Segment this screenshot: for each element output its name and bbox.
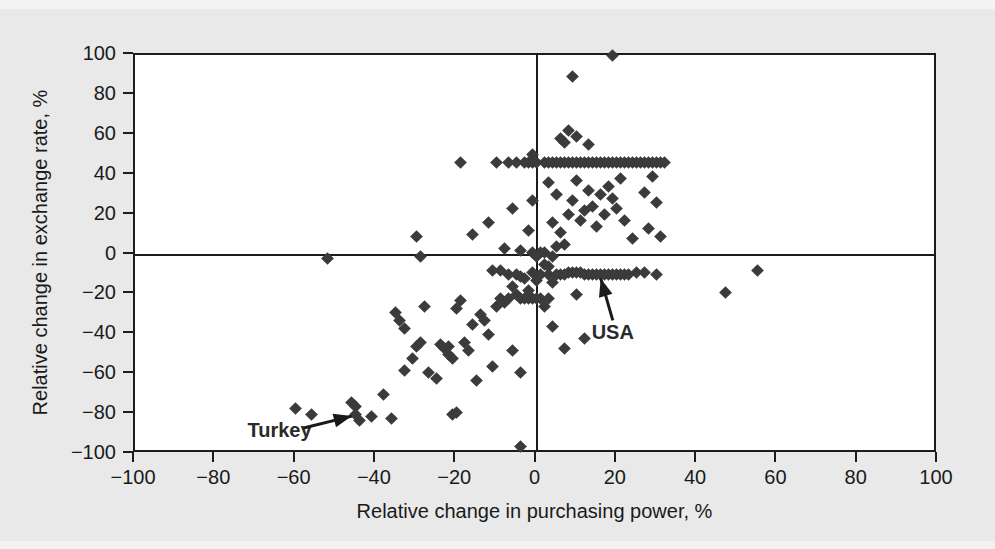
x-axis-title: Relative change in purchasing power, % — [133, 500, 936, 523]
y-axis-tick-label: −20 — [82, 281, 116, 304]
x-axis-tick-label: −60 — [277, 466, 311, 489]
x-axis-tick-label: −80 — [196, 466, 230, 489]
plot-area: TurkeyUSA — [135, 55, 934, 450]
x-axis-tick-label: −100 — [110, 466, 155, 489]
figure-container: Relative change in exchange rate, % Rela… — [0, 0, 995, 549]
y-axis-tick-label: 20 — [94, 201, 116, 224]
y-axis-tick-label: 60 — [94, 121, 116, 144]
y-axis-tick-label: 40 — [94, 161, 116, 184]
y-axis-tick — [123, 331, 133, 333]
y-axis-tick-label: 100 — [83, 42, 116, 65]
y-axis-tick — [123, 411, 133, 413]
y-axis-tick — [123, 291, 133, 293]
y-axis-tick — [123, 172, 133, 174]
y-axis-tick — [123, 212, 133, 214]
x-axis-tick-label: 60 — [764, 466, 786, 489]
y-axis-tick — [123, 132, 133, 134]
x-axis-tick-label: 100 — [919, 466, 952, 489]
x-axis-tick-label: 40 — [684, 466, 706, 489]
x-axis-tick-label: −20 — [437, 466, 471, 489]
y-axis-tick — [123, 52, 133, 54]
y-axis-tick — [123, 92, 133, 94]
x-axis-tick — [132, 452, 134, 462]
plot-frame: TurkeyUSA — [133, 53, 936, 452]
x-axis-tick-label: 20 — [604, 466, 626, 489]
y-axis-tick-label: −60 — [82, 361, 116, 384]
x-axis-tick-label: −40 — [357, 466, 391, 489]
y-axis-tick — [123, 252, 133, 254]
x-axis-tick-label: 80 — [845, 466, 867, 489]
annotation-arrows — [135, 55, 938, 454]
y-axis-tick-label: 80 — [94, 81, 116, 104]
y-axis-tick-label: −80 — [82, 401, 116, 424]
y-axis-tick — [123, 371, 133, 373]
y-axis-tick-label: −40 — [82, 321, 116, 344]
x-axis-tick-label: 0 — [529, 466, 540, 489]
y-axis-tick-label: −100 — [71, 441, 116, 464]
y-axis-tick-label: 0 — [105, 241, 116, 264]
y-axis-title: Relative change in exchange rate, % — [26, 53, 54, 452]
